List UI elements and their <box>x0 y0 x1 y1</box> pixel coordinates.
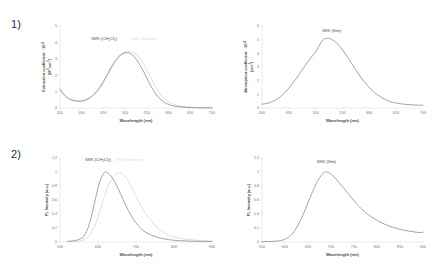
svg-text:4: 4 <box>55 41 57 45</box>
svg-text:2: 2 <box>55 74 57 78</box>
svg-text:1: 1 <box>257 93 259 97</box>
svg-text:550: 550 <box>259 245 265 249</box>
svg-text:IWK (film): IWK (film) <box>317 159 337 164</box>
svg-text:Wavelength (nm): Wavelength (nm) <box>120 118 153 123</box>
svg-text:IWK (CH2Cl2): IWK (CH2Cl2) <box>85 157 111 163</box>
svg-text:450: 450 <box>100 111 106 115</box>
svg-text:0: 0 <box>55 240 57 244</box>
svg-text:0.6: 0.6 <box>254 198 259 202</box>
svg-text:3: 3 <box>55 57 57 61</box>
svg-text:500: 500 <box>313 111 319 115</box>
svg-text:0.8: 0.8 <box>254 184 259 188</box>
svg-text:0.2: 0.2 <box>52 226 57 230</box>
row-label-1: 1) <box>11 18 21 30</box>
svg-text:(cm-1): (cm-1) <box>248 61 253 72</box>
svg-text:IWK (film): IWK (film) <box>322 28 342 33</box>
svg-text:700: 700 <box>209 111 215 115</box>
svg-text:800: 800 <box>171 245 177 249</box>
svg-text:4: 4 <box>257 52 259 56</box>
svg-text:Wavelength (nm): Wavelength (nm) <box>326 118 359 123</box>
figure-sheet: 1) 2) 012345350400450500550600650700Wave… <box>0 0 443 274</box>
svg-text:750: 750 <box>351 245 357 249</box>
svg-text:1: 1 <box>55 170 57 174</box>
svg-text:850: 850 <box>397 245 403 249</box>
svg-text:0.2: 0.2 <box>254 226 259 230</box>
svg-text:550: 550 <box>339 111 345 115</box>
chart-panel-bottom-left: 00.20.40.60.811.2500600700800900Waveleng… <box>30 146 220 270</box>
svg-text:400: 400 <box>79 111 85 115</box>
svg-text:600: 600 <box>165 111 171 115</box>
svg-text:1.2: 1.2 <box>254 156 259 160</box>
svg-text:600: 600 <box>366 111 372 115</box>
row-label-2: 2) <box>11 148 21 160</box>
svg-text:0: 0 <box>257 106 259 110</box>
chart-svg-bottom-left: 00.20.40.60.811.2500600700800900Waveleng… <box>30 146 220 270</box>
svg-text:3: 3 <box>257 65 259 69</box>
svg-text:0.4: 0.4 <box>254 212 259 216</box>
svg-text:IWK (toluene): IWK (toluene) <box>131 36 158 41</box>
svg-text:650: 650 <box>187 111 193 115</box>
svg-text:Wavelength (nm): Wavelength (nm) <box>120 252 153 257</box>
svg-text:450: 450 <box>286 111 292 115</box>
chart-svg-bottom-right: 00.20.40.60.811.255060065070075080085090… <box>228 146 433 270</box>
svg-text:500: 500 <box>122 111 128 115</box>
svg-text:PL Intensity (a.u.): PL Intensity (a.u.) <box>246 183 251 216</box>
svg-text:0: 0 <box>257 240 259 244</box>
chart-svg-top-right: 0123456400450500550600650700Wavelength (… <box>228 14 433 134</box>
svg-text:(M-1cm-1): (M-1cm-1) <box>46 58 51 75</box>
svg-text:0: 0 <box>55 106 57 110</box>
svg-text:350: 350 <box>57 111 63 115</box>
svg-text:0.4: 0.4 <box>52 212 57 216</box>
chart-panel-top-left: 012345350400450500550600650700Wavelength… <box>30 14 220 134</box>
svg-text:1.2: 1.2 <box>52 156 57 160</box>
svg-text:600: 600 <box>282 245 288 249</box>
svg-text:900: 900 <box>420 245 426 249</box>
svg-text:700: 700 <box>133 245 139 249</box>
svg-text:1: 1 <box>55 90 57 94</box>
svg-text:650: 650 <box>393 111 399 115</box>
svg-text:500: 500 <box>57 245 63 249</box>
svg-text:800: 800 <box>374 245 380 249</box>
svg-text:550: 550 <box>144 111 150 115</box>
svg-text:IWK (CH2Cl2): IWK (CH2Cl2) <box>91 36 117 42</box>
svg-text:2: 2 <box>257 79 259 83</box>
svg-text:6: 6 <box>257 24 259 28</box>
chart-panel-top-right: 0123456400450500550600650700Wavelength (… <box>228 14 433 134</box>
svg-text:400: 400 <box>259 111 265 115</box>
svg-text:Wavelength (nm): Wavelength (nm) <box>326 252 359 257</box>
chart-panel-bottom-right: 00.20.40.60.811.255060065070075080085090… <box>228 146 433 270</box>
chart-svg-top-left: 012345350400450500550600650700Wavelength… <box>30 14 220 134</box>
svg-text:700: 700 <box>328 245 334 249</box>
svg-text:5: 5 <box>257 38 259 42</box>
svg-text:650: 650 <box>305 245 311 249</box>
svg-text:0.8: 0.8 <box>52 184 57 188</box>
svg-text:700: 700 <box>420 111 426 115</box>
svg-text:0.6: 0.6 <box>52 198 57 202</box>
svg-text:600: 600 <box>95 245 101 249</box>
svg-text:PL Intensity (a.u.): PL Intensity (a.u.) <box>44 183 49 216</box>
svg-text:1: 1 <box>257 170 259 174</box>
svg-text:900: 900 <box>209 245 215 249</box>
svg-text:5: 5 <box>55 24 57 28</box>
svg-text:IWK (toluene): IWK (toluene) <box>116 157 143 162</box>
